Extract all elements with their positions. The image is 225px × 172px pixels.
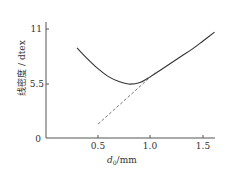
y-tick-label-11: 11 (31, 24, 42, 34)
solid-curve (77, 32, 215, 84)
y-axis-label: 线密度 / dtex (16, 40, 27, 96)
x-tick-label-0.5: 0.5 (91, 141, 106, 151)
dashed-tangent-line (98, 73, 155, 124)
chart: 11 5.5 0 0.5 1.0 1.5 d0/mm 线密度 / dtex (0, 0, 225, 172)
y-tick-label-0: 0 (35, 134, 41, 144)
x-tick-label-1.0: 1.0 (143, 141, 158, 151)
x-axis-label-unit: /mm (117, 155, 138, 165)
y-tick-label-5.5: 5.5 (30, 79, 45, 89)
x-tick-label-1.5: 1.5 (196, 141, 211, 151)
x-axis-label: d0/mm (107, 155, 137, 166)
